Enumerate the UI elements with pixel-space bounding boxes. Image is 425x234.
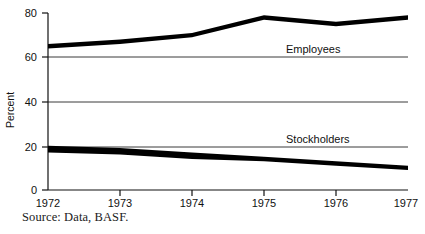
x-tick-label-1972: 1972	[36, 197, 60, 209]
x-tick-label-1975: 1975	[252, 197, 276, 209]
x-tick-label-1974: 1974	[180, 197, 204, 209]
chart-figure: 80 60 40 20 0 1972 1973 1974 1975 1976 1…	[0, 0, 425, 234]
series-band-stockholders	[48, 146, 408, 170]
y-tick-label-60: 60	[25, 51, 37, 63]
y-tick-label-20: 20	[25, 141, 37, 153]
x-tick-label-1976: 1976	[324, 197, 348, 209]
y-tick-label-0: 0	[31, 184, 37, 196]
y-axis-tick-labels: 80 60 40 20 0	[25, 7, 37, 196]
x-axis-tick-labels: 1972 1973 1974 1975 1976 1977	[36, 197, 418, 209]
y-axis-title: Percent	[4, 92, 16, 128]
series-label-stockholders: Stockholders	[286, 133, 350, 145]
y-axis-ticks	[42, 13, 48, 190]
gridlines	[48, 57, 408, 147]
series-label-employees: Employees	[286, 43, 341, 55]
x-axis-ticks	[120, 190, 336, 196]
x-tick-label-1977: 1977	[394, 197, 418, 209]
x-tick-label-1973: 1973	[108, 197, 132, 209]
source-note: Source: Data, BASF.	[22, 210, 128, 225]
line-area-chart: 80 60 40 20 0 1972 1973 1974 1975 1976 1…	[0, 0, 425, 234]
y-tick-label-80: 80	[25, 7, 37, 19]
y-tick-label-40: 40	[25, 96, 37, 108]
series-band-employees	[48, 15, 408, 48]
series-labels: Employees Stockholders	[286, 43, 350, 145]
